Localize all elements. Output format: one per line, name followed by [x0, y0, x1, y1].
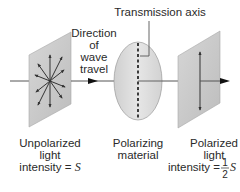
outgoing-arrowhead-icon	[220, 78, 230, 84]
polarization-diagram: Transmission axis Direction of wave trav…	[0, 0, 240, 192]
polarized-label: Polarized light intensity = 1 2 S	[168, 137, 238, 180]
svg-text:Direction: Direction	[71, 27, 116, 39]
polarizing-material	[114, 42, 162, 120]
svg-text:material: material	[118, 149, 159, 161]
polarized-light-panel	[178, 31, 222, 128]
svg-text:travel: travel	[80, 63, 108, 75]
svg-text:intensity =: intensity =	[168, 161, 220, 173]
svg-text:Unpolarized: Unpolarized	[19, 137, 80, 149]
direction-label: Direction of wave travel	[71, 27, 116, 75]
unpolarized-light-panel	[29, 32, 71, 127]
transmission-axis-label: Transmission axis	[114, 6, 206, 18]
svg-text:S: S	[230, 160, 236, 174]
svg-text:light: light	[39, 149, 61, 161]
polarizing-material-label: Polarizing material	[113, 137, 164, 161]
svg-text:Polarized: Polarized	[190, 137, 238, 149]
svg-text:Polarizing: Polarizing	[113, 137, 164, 149]
svg-text:2: 2	[222, 169, 228, 180]
svg-text:wave: wave	[80, 51, 108, 63]
unpolarized-label: Unpolarized light intensity = S	[19, 137, 80, 174]
svg-text:intensity = S: intensity = S	[19, 160, 80, 174]
svg-text:of: of	[89, 39, 99, 51]
svg-text:1: 1	[222, 157, 228, 168]
direction-arrowhead-icon	[88, 78, 98, 84]
